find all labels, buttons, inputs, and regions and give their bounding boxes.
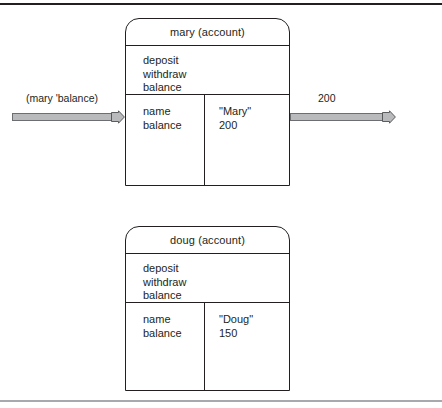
arrow-request-label: (mary 'balance) — [26, 92, 98, 104]
object-header-doug: doug (account) — [126, 227, 289, 254]
object-fields-doug: name balance "Doug" 150 — [126, 303, 289, 390]
method-label: balance — [143, 289, 289, 303]
object-methods-mary: deposit withdraw balance — [126, 46, 289, 95]
frame-rule-bottom — [0, 400, 442, 402]
method-label: withdraw — [143, 68, 289, 82]
field-value: "Doug" — [219, 312, 289, 326]
field-value: 200 — [219, 118, 289, 132]
arrow-response-label: 200 — [318, 92, 336, 104]
field-name: balance — [143, 118, 204, 132]
method-label: deposit — [143, 262, 289, 276]
method-label: withdraw — [143, 276, 289, 290]
arrow-request-shaft — [12, 113, 114, 121]
object-box-mary: mary (account) deposit withdraw balance … — [125, 18, 290, 186]
object-field-values-mary: "Mary" 200 — [205, 95, 289, 185]
object-header-mary: mary (account) — [126, 19, 289, 46]
field-name: balance — [143, 326, 204, 340]
field-name: name — [143, 104, 204, 118]
arrow-response-shaft — [290, 113, 385, 121]
arrow-request-head — [111, 110, 125, 124]
method-label: deposit — [143, 54, 289, 68]
field-value: 150 — [219, 326, 289, 340]
arrow-response — [290, 110, 398, 124]
figure-canvas: (mary 'balance) 200 mary (account) depos… — [0, 0, 442, 408]
field-value: "Mary" — [219, 104, 289, 118]
object-field-values-doug: "Doug" 150 — [205, 303, 289, 390]
object-methods-doug: deposit withdraw balance — [126, 254, 289, 303]
frame-rule-top — [0, 3, 442, 5]
object-fields-mary: name balance "Mary" 200 — [126, 95, 289, 185]
method-label: balance — [143, 81, 289, 95]
arrow-request — [12, 110, 127, 124]
field-name: name — [143, 312, 204, 326]
object-box-doug: doug (account) deposit withdraw balance … — [125, 226, 290, 391]
object-field-names-doug: name balance — [126, 303, 205, 390]
object-field-names-mary: name balance — [126, 95, 205, 185]
arrow-response-head — [382, 110, 396, 124]
